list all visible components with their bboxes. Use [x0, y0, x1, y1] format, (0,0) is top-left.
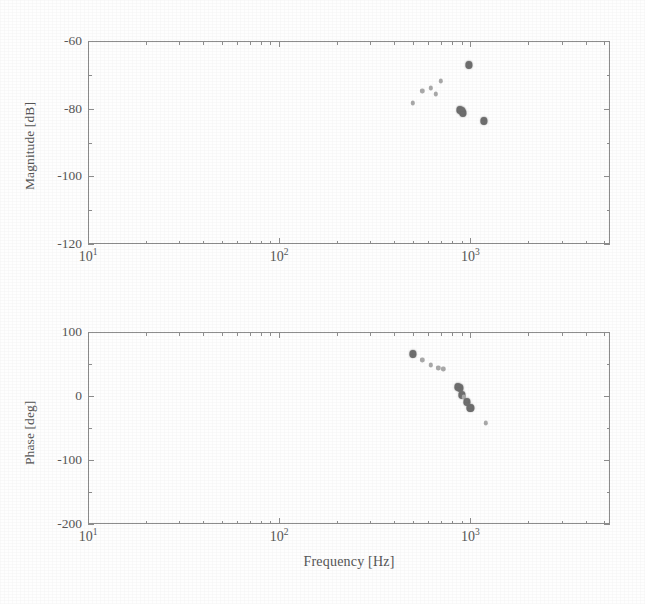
x-major-tick: [279, 332, 280, 338]
x-minor-tick: [250, 521, 251, 525]
x-major-tick: [470, 518, 471, 524]
y-major-tick: [604, 396, 610, 397]
x-minor-tick: [413, 241, 414, 245]
y-axis-label: Magnitude [dB]: [22, 102, 38, 190]
y-axis-label: Phase [deg]: [22, 401, 38, 465]
x-minor-tick: [146, 41, 147, 45]
x-tick-mantissa: 10: [461, 249, 475, 264]
y-major-tick: [604, 332, 610, 333]
x-minor-tick: [462, 41, 463, 45]
x-minor-tick: [222, 41, 223, 45]
x-minor-tick: [428, 41, 429, 45]
y-tick-label: 100: [30, 324, 82, 340]
x-minor-tick: [562, 41, 563, 45]
y-minor-tick: [88, 492, 92, 493]
x-minor-tick: [250, 241, 251, 245]
y-minor-tick: [607, 210, 611, 211]
y-major-tick: [88, 460, 94, 461]
x-minor-tick: [462, 521, 463, 525]
x-minor-tick: [261, 521, 262, 525]
y-tick-label: -120: [30, 236, 82, 252]
x-minor-tick: [250, 41, 251, 45]
x-minor-tick: [222, 332, 223, 336]
axes-frame: [88, 332, 610, 524]
x-minor-tick: [452, 41, 453, 45]
x-minor-tick: [562, 521, 563, 525]
x-tick-exponent: 1: [93, 247, 98, 257]
x-tick-mantissa: 10: [270, 249, 284, 264]
x-tick-label: 103: [461, 529, 480, 545]
x-tick-exponent: 3: [475, 527, 480, 537]
x-minor-tick: [270, 41, 271, 45]
x-minor-tick: [528, 41, 529, 45]
x-minor-tick: [237, 521, 238, 525]
y-minor-tick: [607, 428, 611, 429]
x-minor-tick: [586, 332, 587, 336]
x-tick-mantissa: 10: [461, 529, 475, 544]
x-minor-tick: [337, 332, 338, 336]
x-minor-tick: [337, 521, 338, 525]
x-minor-tick: [452, 241, 453, 245]
y-minor-tick: [607, 492, 611, 493]
y-minor-tick: [88, 143, 92, 144]
y-minor-tick: [88, 75, 92, 76]
y-major-tick: [604, 176, 610, 177]
x-minor-tick: [179, 521, 180, 525]
x-minor-tick: [370, 241, 371, 245]
x-minor-tick: [413, 332, 414, 336]
x-major-tick: [279, 41, 280, 47]
bode-plot-figure: 101102103-60-80-100-120Magnitude [dB] 10…: [0, 0, 645, 604]
x-minor-tick: [562, 332, 563, 336]
y-major-tick: [604, 524, 610, 525]
x-minor-tick: [428, 241, 429, 245]
x-minor-tick: [528, 332, 529, 336]
y-major-tick: [88, 332, 94, 333]
x-minor-tick: [394, 332, 395, 336]
x-axis-label: Frequency [Hz]: [303, 554, 394, 570]
x-minor-tick: [428, 332, 429, 336]
y-minor-tick: [607, 75, 611, 76]
x-minor-tick: [370, 41, 371, 45]
x-minor-tick: [270, 332, 271, 336]
y-major-tick: [88, 244, 94, 245]
x-minor-tick: [337, 41, 338, 45]
y-minor-tick: [88, 210, 92, 211]
x-major-tick: [470, 238, 471, 244]
x-minor-tick: [413, 41, 414, 45]
x-minor-tick: [261, 332, 262, 336]
x-minor-tick: [370, 521, 371, 525]
x-tick-exponent: 1: [93, 527, 98, 537]
x-minor-tick: [270, 521, 271, 525]
y-tick-label: -200: [30, 516, 82, 532]
x-minor-tick: [261, 241, 262, 245]
x-minor-tick: [203, 41, 204, 45]
x-minor-tick: [146, 521, 147, 525]
x-minor-tick: [203, 521, 204, 525]
y-major-tick: [88, 41, 94, 42]
x-minor-tick: [394, 241, 395, 245]
x-minor-tick: [428, 521, 429, 525]
x-minor-tick: [452, 521, 453, 525]
y-major-tick: [604, 109, 610, 110]
y-major-tick: [604, 460, 610, 461]
y-major-tick: [88, 109, 94, 110]
x-major-tick: [470, 41, 471, 47]
x-minor-tick: [452, 332, 453, 336]
y-minor-tick: [607, 143, 611, 144]
y-minor-tick: [607, 364, 611, 365]
x-tick-label: 103: [461, 249, 480, 265]
x-minor-tick: [270, 241, 271, 245]
x-tick-mantissa: 10: [270, 529, 284, 544]
x-minor-tick: [562, 241, 563, 245]
x-tick-exponent: 2: [284, 527, 289, 537]
x-minor-tick: [179, 241, 180, 245]
x-minor-tick: [203, 332, 204, 336]
x-minor-tick: [237, 332, 238, 336]
x-minor-tick: [250, 332, 251, 336]
x-tick-exponent: 3: [475, 247, 480, 257]
x-tick-label: 102: [270, 249, 289, 265]
x-minor-tick: [586, 41, 587, 45]
x-tick-exponent: 2: [284, 247, 289, 257]
x-minor-tick: [222, 521, 223, 525]
x-tick-label: 102: [270, 529, 289, 545]
